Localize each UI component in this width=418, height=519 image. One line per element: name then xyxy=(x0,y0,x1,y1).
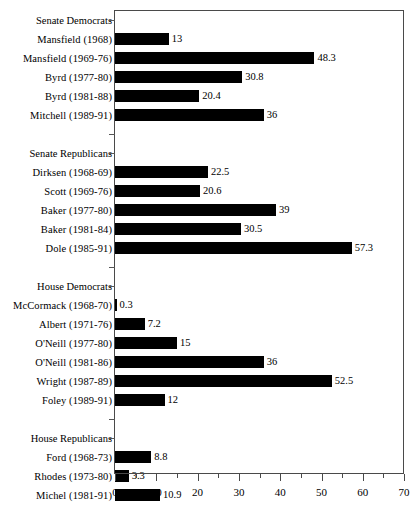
bar xyxy=(115,375,332,387)
x-tick-major xyxy=(280,474,281,481)
chart-spacer-row xyxy=(0,410,418,429)
bar-value-label: 36 xyxy=(267,106,278,125)
bar-value-label: 52.5 xyxy=(335,372,353,391)
chart-bar-row: Byrd (1977-80)30.8 xyxy=(0,68,418,87)
group-label: House Democrats xyxy=(37,277,112,296)
chart-bar-row: Baker (1977-80)39 xyxy=(0,201,418,220)
category-label: Mansfield (1969-76) xyxy=(23,49,112,68)
axis-tick-mark xyxy=(109,267,115,268)
bar-value-label: 30.8 xyxy=(245,68,263,87)
chart-bar-row: Wright (1987-89)52.5 xyxy=(0,372,418,391)
bar-chart: Senate DemocratsMansfield (1968)13Mansfi… xyxy=(0,0,418,519)
bar xyxy=(115,394,165,406)
bar-value-label: 15 xyxy=(180,334,191,353)
category-label: McCormack (1968-70) xyxy=(13,296,112,315)
bar xyxy=(115,52,314,64)
category-label: Rhodes (1973-80) xyxy=(34,467,112,486)
bar xyxy=(115,470,129,482)
bar xyxy=(115,337,177,349)
x-tick-major xyxy=(115,474,116,481)
x-tick-label: 50 xyxy=(302,486,342,498)
chart-bar-row: Baker (1981-84)30.5 xyxy=(0,220,418,239)
group-label: Senate Republicans xyxy=(29,144,112,163)
axis-tick-mark xyxy=(109,419,115,420)
category-label: O'Neill (1981-86) xyxy=(35,353,112,372)
x-tick-major xyxy=(322,474,323,481)
chart-bar-row: Dirksen (1968-69)22.5 xyxy=(0,163,418,182)
axis-tick-mark xyxy=(109,134,115,135)
category-label: Wright (1987-89) xyxy=(36,372,112,391)
x-tick-label: 0 xyxy=(95,486,135,498)
chart-bar-row: Byrd (1981-88)20.4 xyxy=(0,87,418,106)
x-tick-major xyxy=(404,474,405,481)
bar-value-label: 36 xyxy=(267,353,278,372)
bar-value-label: 39 xyxy=(279,201,290,220)
bar-value-label: 22.5 xyxy=(211,163,229,182)
chart-bar-row: Mitchell (1989-91)36 xyxy=(0,106,418,125)
axis-tick-mark xyxy=(109,153,115,154)
chart-bar-row: Foley (1989-91)12 xyxy=(0,391,418,410)
category-label: Byrd (1981-88) xyxy=(45,87,112,106)
bar-value-label: 3.3 xyxy=(132,467,145,486)
axis-tick-mark xyxy=(109,20,115,21)
chart-bar-row: O'Neill (1981-86)36 xyxy=(0,353,418,372)
category-label: Scott (1969-76) xyxy=(44,182,112,201)
x-tick-minor xyxy=(136,474,137,478)
bar-value-label: 57.3 xyxy=(355,239,373,258)
bar-value-label: 30.5 xyxy=(244,220,262,239)
x-tick-minor xyxy=(177,474,178,478)
category-label: Mansfield (1968) xyxy=(37,30,112,49)
bar xyxy=(115,71,242,83)
category-label: Baker (1977-80) xyxy=(41,201,112,220)
bar-value-label: 13 xyxy=(172,30,183,49)
chart-spacer-row xyxy=(0,125,418,144)
bar-value-label: 48.3 xyxy=(317,49,335,68)
chart-bar-row: Ford (1968-73)8.8 xyxy=(0,448,418,467)
x-tick-label: 30 xyxy=(219,486,259,498)
chart-group-header-row: Senate Republicans xyxy=(0,144,418,163)
axis-tick-mark xyxy=(109,438,115,439)
chart-spacer-row xyxy=(0,258,418,277)
category-label: Mitchell (1989-91) xyxy=(30,106,112,125)
category-label: Byrd (1977-80) xyxy=(45,68,112,87)
chart-bar-row: McCormack (1968-70)0.3 xyxy=(0,296,418,315)
category-label: Albert (1971-76) xyxy=(39,315,112,334)
chart-bar-row: Rhodes (1973-80)3.3 xyxy=(0,467,418,486)
x-tick-minor xyxy=(342,474,343,478)
category-label: Baker (1981-84) xyxy=(41,220,112,239)
bar-value-label: 12 xyxy=(168,391,179,410)
bar xyxy=(115,242,352,254)
chart-group-header-row: House Republicans xyxy=(0,429,418,448)
x-tick-label: 40 xyxy=(260,486,300,498)
bar xyxy=(115,166,208,178)
bar xyxy=(115,451,151,463)
x-tick-label: 70 xyxy=(384,486,418,498)
chart-bar-row: Mansfield (1969-76)48.3 xyxy=(0,49,418,68)
chart-group-header-row: Senate Democrats xyxy=(0,11,418,30)
bar-value-label: 8.8 xyxy=(154,448,167,467)
chart-group-header-row: House Democrats xyxy=(0,277,418,296)
x-tick-label: 10 xyxy=(136,486,176,498)
bar-value-label: 20.6 xyxy=(203,182,221,201)
x-tick-major xyxy=(239,474,240,481)
category-label: Dirksen (1968-69) xyxy=(32,163,112,182)
axis-tick-mark xyxy=(109,286,115,287)
x-tick-minor xyxy=(383,474,384,478)
bar xyxy=(115,90,199,102)
bar xyxy=(115,109,264,121)
x-tick-minor xyxy=(260,474,261,478)
x-tick-major xyxy=(363,474,364,481)
x-tick-minor xyxy=(301,474,302,478)
chart-bar-row: Albert (1971-76)7.2 xyxy=(0,315,418,334)
x-tick-label: 60 xyxy=(343,486,383,498)
chart-bar-row: O'Neill (1977-80)15 xyxy=(0,334,418,353)
bar xyxy=(115,318,145,330)
bar xyxy=(115,33,169,45)
chart-bar-row: Scott (1969-76)20.6 xyxy=(0,182,418,201)
bar xyxy=(115,185,200,197)
bar xyxy=(115,299,117,311)
bar xyxy=(115,204,276,216)
category-label: O'Neill (1977-80) xyxy=(35,334,112,353)
x-tick-major xyxy=(198,474,199,481)
bar-value-label: 7.2 xyxy=(148,315,161,334)
